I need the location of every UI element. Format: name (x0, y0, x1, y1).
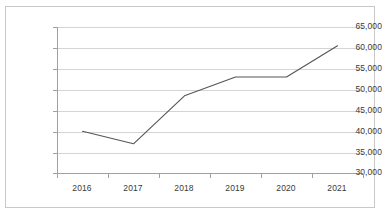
plot-area: 65,000 60,000 55,000 50,000 45,000 40,00… (0, 0, 382, 216)
line-chart: 65,000 60,000 55,000 50,000 45,000 40,00… (0, 0, 382, 216)
data-series-layer (0, 0, 382, 216)
series-line (83, 46, 338, 144)
